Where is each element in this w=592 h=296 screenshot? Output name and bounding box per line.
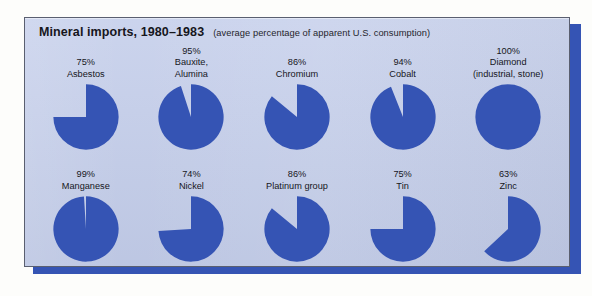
pie-percentage-label: 86%	[276, 57, 318, 69]
pie-percentage-label: 100%	[473, 46, 543, 58]
pie-label-block: 86%Platinum group	[266, 156, 328, 192]
pie-slice-shape	[369, 83, 437, 151]
pie-label-block: 86%Chromium	[276, 44, 318, 80]
pie-percentage-label: 86%	[266, 169, 328, 181]
pie-label-block: 75%Asbestos	[67, 44, 105, 80]
pie-chart-item: 95%Bauxite,Alumina	[139, 44, 245, 156]
pie-percentage-label: 95%	[175, 46, 208, 58]
pie-slice-shape	[157, 195, 225, 263]
pie-row: 99%Manganese74%Nickel86%Platinum group75…	[33, 156, 561, 268]
pie-mineral-label: Alumina	[175, 69, 208, 81]
pie-percentage-label: 63%	[499, 169, 517, 181]
figure-stage: Mineral imports, 1980–1983 (average perc…	[0, 0, 592, 296]
pie-chart	[52, 195, 120, 263]
pie-chart-item: 86%Platinum group	[244, 156, 350, 268]
pie-chart-item: 94%Cobalt	[350, 44, 456, 156]
pie-chart-item: 75%Asbestos	[33, 44, 139, 156]
title-row: Mineral imports, 1980–1983 (average perc…	[39, 25, 559, 39]
pie-row: 75%Asbestos95%Bauxite,Alumina86%Chromium…	[33, 44, 561, 156]
pie-chart	[474, 83, 542, 151]
pie-chart	[157, 195, 225, 263]
pie-label-block: 74%Nickel	[179, 156, 204, 192]
chart-panel: Mineral imports, 1980–1983 (average perc…	[24, 17, 570, 267]
pie-chart	[157, 83, 225, 151]
pie-percentage-label: 75%	[393, 169, 411, 181]
pie-mineral-label: Zinc	[499, 181, 517, 193]
pie-slice-shape	[474, 195, 542, 263]
pie-mineral-label: Diamond	[473, 57, 543, 69]
pie-label-block: 63%Zinc	[499, 156, 517, 192]
pie-label-block: 99%Manganese	[62, 156, 110, 192]
pie-mineral-label: Chromium	[276, 69, 318, 81]
pie-chart	[263, 83, 331, 151]
pie-chart	[369, 195, 437, 263]
pie-percentage-label: 99%	[62, 169, 110, 181]
pie-chart	[52, 83, 120, 151]
pie-chart-item: 63%Zinc	[455, 156, 561, 268]
pie-mineral-label: Platinum group	[266, 181, 328, 193]
pie-chart	[369, 83, 437, 151]
pie-chart-item: 75%Tin	[350, 156, 456, 268]
pie-percentage-label: 74%	[179, 169, 204, 181]
pie-mineral-label: Cobalt	[389, 69, 416, 81]
pie-mineral-label: Manganese	[62, 181, 110, 193]
pie-grid: 75%Asbestos95%Bauxite,Alumina86%Chromium…	[33, 44, 561, 266]
pie-percentage-label: 94%	[389, 57, 416, 69]
pie-chart	[474, 195, 542, 263]
pie-slice-shape	[157, 83, 225, 151]
pie-slice-shape	[474, 83, 542, 151]
pie-slice-shape	[52, 195, 120, 263]
pie-chart-item: 74%Nickel	[139, 156, 245, 268]
pie-label-block: 94%Cobalt	[389, 44, 416, 80]
pie-mineral-label: Bauxite,	[175, 57, 208, 69]
pie-chart-item: 86%Chromium	[244, 44, 350, 156]
pie-chart-item: 99%Manganese	[33, 156, 139, 268]
pie-chart-item: 100%Diamond(industrial, stone)	[455, 44, 561, 156]
pie-mineral-label: (industrial, stone)	[473, 69, 543, 81]
pie-slice-shape	[52, 83, 120, 151]
pie-mineral-label: Nickel	[179, 181, 204, 193]
pie-mineral-label: Tin	[393, 181, 411, 193]
pie-label-block: 95%Bauxite,Alumina	[175, 44, 208, 80]
pie-chart	[263, 195, 331, 263]
pie-label-block: 100%Diamond(industrial, stone)	[473, 44, 543, 80]
panel-top-highlight	[25, 18, 569, 19]
pie-slice-shape	[369, 195, 437, 263]
pie-slice-shape	[263, 195, 331, 263]
page-title: Mineral imports, 1980–1983	[39, 25, 204, 39]
pie-label-block: 75%Tin	[393, 156, 411, 192]
pie-slice-shape	[263, 83, 331, 151]
pie-mineral-label: Asbestos	[67, 69, 105, 81]
pie-percentage-label: 75%	[67, 57, 105, 69]
page-subtitle: (average percentage of apparent U.S. con…	[213, 28, 430, 38]
